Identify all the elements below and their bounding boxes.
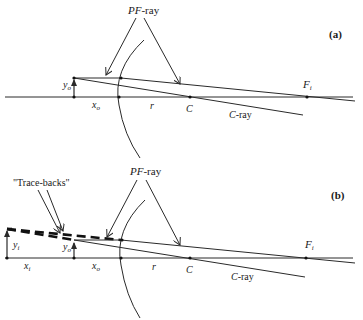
- image-arrowhead-icon: [4, 230, 10, 237]
- center-point: [188, 256, 191, 259]
- trace-backs-label: "Trace-backs": [13, 177, 70, 188]
- pf-ray-pointer-right: [146, 180, 180, 245]
- c-ray-label: C-ray: [231, 271, 254, 282]
- focus-label: Fi: [302, 78, 312, 92]
- focus-label: Fi: [304, 238, 314, 252]
- image-distance-label: xi: [23, 260, 30, 273]
- object-base-point: [72, 95, 75, 98]
- panel-b: "Trace-backs" PF-ray yi xi yo xo r C Fi …: [4, 165, 355, 318]
- object-tip-point: [72, 76, 75, 79]
- pf-ray-pointer-left: [106, 18, 136, 75]
- pf-ray-pointer-right: [144, 18, 180, 84]
- focus-point: [305, 95, 308, 98]
- pf-ray-label: PF-ray: [127, 4, 160, 16]
- center-label: C: [186, 103, 193, 114]
- object-distance-label: xo: [91, 99, 100, 112]
- ray-diagram: PF-ray yo xo r C Fi C-ray (a): [0, 0, 363, 320]
- radius-label: r: [150, 100, 154, 111]
- panel-a-tag: (a): [329, 28, 342, 41]
- image-height-label: yi: [12, 239, 19, 252]
- pf-ray: [74, 78, 355, 101]
- ray-surface-point: [119, 76, 122, 79]
- vertex-point: [117, 95, 120, 98]
- panel-b-tag: (b): [331, 189, 345, 202]
- center-point: [188, 95, 191, 98]
- refracting-surface-arc: [120, 200, 145, 318]
- object-arrowhead-icon: [71, 242, 77, 249]
- object-arrowhead-icon: [71, 79, 77, 86]
- focus-point: [304, 256, 307, 259]
- refracting-surface-arc: [118, 40, 144, 158]
- c-ray-label: C-ray: [229, 109, 252, 120]
- center-label: C: [186, 264, 193, 275]
- pf-ray-pointer-left: [107, 180, 137, 237]
- pf-ray-label: PF-ray: [129, 165, 162, 177]
- radius-label: r: [152, 261, 156, 272]
- object-height-label: yo: [62, 79, 71, 92]
- image-base-point: [5, 256, 8, 259]
- vertex-point: [119, 256, 122, 259]
- trace-backs-pointer-2: [47, 190, 63, 231]
- object-base-point: [72, 256, 75, 259]
- panel-a: PF-ray yo xo r C Fi C-ray (a): [5, 4, 355, 158]
- object-height-label: yo: [62, 241, 71, 254]
- object-distance-label: xo: [91, 260, 100, 273]
- ray-surface-point: [120, 238, 123, 241]
